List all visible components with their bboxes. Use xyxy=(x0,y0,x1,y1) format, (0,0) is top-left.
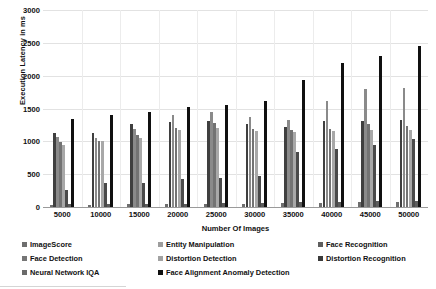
bar-cluster xyxy=(197,10,236,207)
bar-cluster xyxy=(390,10,429,207)
bar-cluster xyxy=(236,10,275,207)
legend-item[interactable]: Face Alignment Anomaly Detection xyxy=(158,269,289,276)
legend-swatch-icon xyxy=(158,242,163,247)
bar xyxy=(187,107,190,207)
legend-swatch-icon xyxy=(22,270,27,275)
bar xyxy=(104,183,107,207)
legend-item[interactable]: Face Detection xyxy=(22,255,83,262)
legend-label: Entity Manipulation xyxy=(166,241,234,248)
bar-cluster xyxy=(82,10,121,207)
x-axis-title: Number Of Images xyxy=(43,224,428,233)
legend-swatch-icon xyxy=(158,270,163,275)
legend-label: ImageScore xyxy=(30,241,72,248)
y-tick-label-2000: 2000 xyxy=(4,72,40,80)
legend-label: Face Alignment Anomaly Detection xyxy=(166,269,289,276)
y-tick-label-1500: 1500 xyxy=(4,105,40,113)
bar xyxy=(110,115,113,207)
y-tick-label-0: 0 xyxy=(4,204,40,212)
bar xyxy=(341,63,344,207)
y-tick-label-1000: 1000 xyxy=(4,138,40,146)
legend-item[interactable]: Distortion Recognition xyxy=(318,255,406,262)
bar-cluster xyxy=(274,10,313,207)
plot-area xyxy=(43,10,428,207)
bars-layer xyxy=(43,10,428,207)
legend-label: Neural Network IQA xyxy=(30,269,99,276)
bar xyxy=(418,46,421,207)
bar xyxy=(71,119,74,207)
bar xyxy=(148,112,151,207)
bar xyxy=(225,105,228,207)
y-tick-label-500: 500 xyxy=(4,171,40,179)
bar-cluster xyxy=(43,10,82,207)
bar xyxy=(335,149,338,207)
legend-label: Face Recognition xyxy=(326,241,388,248)
bar-cluster xyxy=(351,10,390,207)
legend-label: Distortion Recognition xyxy=(326,255,406,262)
legend-label: Face Detection xyxy=(30,255,83,262)
bar-cluster xyxy=(120,10,159,207)
legend-item[interactable]: ImageScore xyxy=(22,241,72,248)
y-tick-label-2500: 2500 xyxy=(4,39,40,47)
legend-swatch-icon xyxy=(318,256,323,261)
chart-legend: ImageScoreEntity ManipulationFace Recogn… xyxy=(22,241,432,285)
legend-item[interactable]: Face Recognition xyxy=(318,241,388,248)
bar xyxy=(264,101,267,207)
y-tick-label-3000: 3000 xyxy=(4,7,40,15)
gridline-0 xyxy=(43,207,428,208)
legend-item[interactable]: Entity Manipulation xyxy=(158,241,234,248)
legend-label: Distortion Detection xyxy=(166,255,237,262)
bar xyxy=(373,145,376,207)
x-tick-label-50000: 50000 xyxy=(379,211,436,219)
bar xyxy=(302,80,305,207)
legend-swatch-icon xyxy=(318,242,323,247)
bar xyxy=(379,56,382,207)
bar xyxy=(412,139,415,207)
bottom-divider xyxy=(0,286,126,287)
bar-chart: Execution Latency in ms 3000250020001500… xyxy=(0,0,436,289)
legend-swatch-icon xyxy=(158,256,163,261)
legend-item[interactable]: Distortion Detection xyxy=(158,255,237,262)
bar-cluster xyxy=(159,10,198,207)
legend-swatch-icon xyxy=(22,256,27,261)
bar xyxy=(296,152,299,207)
legend-swatch-icon xyxy=(22,242,27,247)
bar-cluster xyxy=(313,10,352,207)
legend-item[interactable]: Neural Network IQA xyxy=(22,269,99,276)
